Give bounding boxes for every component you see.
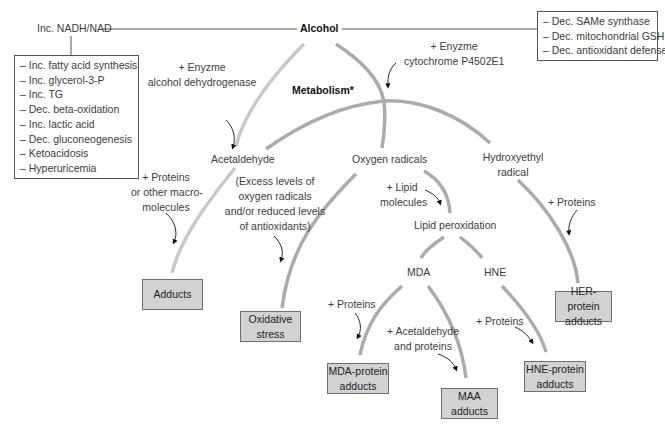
arrow-lipid (425, 190, 440, 203)
alcohol-label: Alcohol (300, 21, 339, 36)
annotation-line: + Lipid (380, 180, 424, 195)
outcome-line: adducts (526, 377, 584, 392)
right-effect-item: Dec. mitochondrial GSH (543, 29, 651, 44)
oxidative-stress-box: Oxidativestress (240, 311, 301, 342)
hydroxyethyl-line1: Hydroxyethyl (478, 150, 548, 165)
arrow-cyp (388, 63, 396, 86)
adducts-box: Adducts (142, 279, 203, 310)
arrow-proteins-her (569, 210, 577, 233)
nadh-effect-item: Inc. fatty acid synthesis (20, 58, 132, 73)
enzyme-cyp-line2: cytochrome P4502E1 (404, 54, 504, 69)
annotation-line: (Excess levels of (220, 174, 330, 189)
right-effect-item: Dec. antioxidant defense (543, 43, 651, 58)
outcome-line: adducts (451, 404, 488, 419)
enzyme-adh-line1: + Enyzme (147, 60, 257, 75)
enzyme-adh-label: + Enyzme alcohol dehydrogenase (147, 60, 257, 90)
arrow-proteins-macro (166, 213, 176, 242)
hydroxyethyl-line2: radical (478, 165, 548, 180)
outcome-line: stress (249, 327, 293, 342)
excess-radicals-annotation: (Excess levels of oxygen radicals and/or… (220, 174, 330, 234)
lipid-peroxidation-label: Lipid peroxidation (414, 218, 496, 233)
annotation-line: + Acetaldehyde (378, 324, 468, 339)
path-lipid-hne (460, 237, 482, 258)
path-lipid-mda (421, 237, 444, 258)
nadh-effect-item: Ketoacidosis (20, 146, 132, 161)
nadh-effects-list: Inc. fatty acid synthesis Inc. glycerol-… (14, 55, 139, 179)
outcome-line: MDA-protein (329, 364, 388, 379)
proteins-hne-annotation: + Proteins (476, 314, 524, 329)
mda-protein-adducts-box: MDA-proteinadducts (327, 363, 389, 394)
outcome-line: adducts (556, 314, 611, 329)
nadh-label: Inc. NADH/NAD (37, 21, 112, 36)
outcome-line: Adducts (154, 287, 192, 302)
nadh-effect-item: Hyperuricemia (20, 161, 132, 176)
hydroxyethyl-radical-label: Hydroxyethyl radical (478, 150, 548, 180)
oxygen-radicals-label: Oxygen radicals (352, 152, 427, 167)
arrow-proteins-hne (515, 327, 532, 342)
annotation-line: and proteins (378, 339, 468, 354)
path-radicals-lipid (424, 171, 450, 213)
nadh-effect-item: Inc. lactic acid (20, 117, 132, 132)
outcome-line: MAA (451, 389, 488, 404)
acetaldehyde-proteins-annotation: + Acetaldehyde and proteins (378, 324, 468, 354)
nadh-effect-item: Dec. gluconeogenesis (20, 132, 132, 147)
maa-adducts-box: MAAadducts (441, 388, 498, 419)
outcome-line: Oxidative (249, 312, 293, 327)
annotation-line: molecules (380, 195, 424, 210)
annotation-line: of antioxidants) (220, 219, 330, 234)
proteins-her-annotation: + Proteins (548, 195, 596, 210)
annotation-line: oxygen radicals (220, 189, 330, 204)
path-metabolism-arc (266, 101, 490, 149)
annotation-line: molecules (131, 200, 201, 215)
proteins-macro-annotation: + Proteins or other macro- molecules (131, 170, 201, 215)
arrow-excess (274, 236, 282, 260)
enzyme-cyp-line1: + Enyzme (404, 39, 504, 54)
acetaldehyde-label: Acetaldehyde (211, 152, 275, 167)
enzyme-adh-line2: alcohol dehydrogenase (147, 75, 257, 90)
enzyme-cyp-label: + Enyzme cytochrome P4502E1 (404, 39, 504, 69)
arrow-adh (226, 120, 234, 147)
lipid-molecules-annotation: + Lipid molecules (380, 180, 424, 210)
nadh-effect-item: Inc. TG (20, 87, 132, 102)
arrow-acetaldehyde-proteins (438, 354, 456, 369)
outcome-line: adducts (329, 379, 388, 394)
mda-label: MDA (407, 265, 430, 280)
hne-protein-adducts-box: HNE-proteinadducts (524, 361, 586, 392)
right-effect-item: Dec. SAMe synthase (543, 14, 651, 29)
arrow-proteins-mda (355, 313, 360, 337)
proteins-mda-annotation: + Proteins (328, 297, 376, 312)
nadh-effect-item: Inc. glycerol-3-P (20, 73, 132, 88)
metabolism-label: Metabolism* (292, 83, 354, 98)
outcome-line: HER-protein (556, 284, 611, 314)
annotation-line: or other macro- (131, 185, 201, 200)
annotation-line: and/or reduced levels (220, 204, 330, 219)
nadh-effect-item: Dec. beta-oxidation (20, 102, 132, 117)
her-protein-adducts-box: HER-proteinadducts (555, 291, 612, 322)
hne-label: HNE (484, 265, 506, 280)
alcohol-right-effects-list: Dec. SAMe synthase Dec. mitochondrial GS… (537, 11, 658, 61)
annotation-line: + Proteins (131, 170, 201, 185)
outcome-line: HNE-protein (526, 362, 584, 377)
